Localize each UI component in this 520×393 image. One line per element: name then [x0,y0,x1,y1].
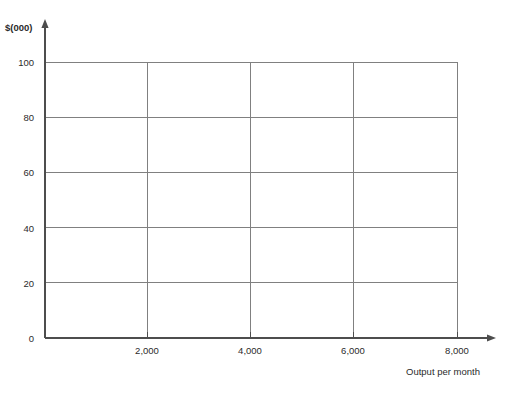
y-tick-label-0: 0 [0,333,34,344]
x-tick-marks [147,332,457,338]
y-axis-arrowhead-icon [41,19,48,28]
y-tick-label-100: 100 [0,57,34,68]
x-tick-label-2000: 2,000 [135,345,159,356]
chart-canvas: $(000) Output per month 100 80 60 40 20 … [0,0,520,393]
x-tick-label-4000: 4,000 [238,345,262,356]
x-axis [45,334,496,341]
y-axis [41,19,48,338]
chart-grid-svg [0,0,520,393]
y-tick-label-80: 80 [0,112,34,123]
y-axis-title: $(000) [5,22,32,33]
y-tick-label-40: 40 [0,222,34,233]
horizontal-gridlines [45,62,457,283]
x-tick-label-8000: 8,000 [445,345,469,356]
y-tick-label-60: 60 [0,167,34,178]
vertical-gridlines [147,62,457,338]
x-axis-arrowhead-icon [487,334,496,341]
x-axis-title: Output per month [406,366,480,377]
x-tick-label-6000: 6,000 [341,345,365,356]
y-tick-label-20: 20 [0,277,34,288]
